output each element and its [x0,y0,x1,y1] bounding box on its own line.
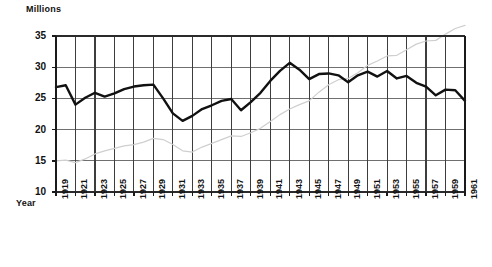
x-tick-label: 1929 [157,179,167,199]
x-tick-label: 1961 [469,179,479,199]
grid-lines [56,36,465,192]
x-tick-label: 1957 [430,179,440,199]
x-tick-label: 1919 [60,179,70,199]
y-tick-label: 25 [24,92,46,103]
x-tick-label: 1945 [313,179,323,199]
x-tick-label: 1923 [99,179,109,199]
x-tick-label: 1947 [333,179,343,199]
y-tick-label: 10 [24,186,46,197]
y-tick-label: 20 [24,124,46,135]
data-series-layer [56,25,465,162]
y-tick-label: 15 [24,155,46,166]
x-tick-label: 1935 [216,179,226,199]
x-tick-label: 1927 [138,179,148,199]
x-tick-label: 1953 [391,179,401,199]
series-line-goods-producing [56,63,465,121]
chart-legend: Goods-Producing Service-Producing [0,238,492,260]
x-tick-label: 1931 [177,179,187,199]
x-tick-label: 1949 [352,179,362,199]
x-tick-label: 1941 [274,179,284,199]
x-tick-label: 1939 [255,179,265,199]
x-tick-label: 1937 [235,179,245,199]
y-tick-label: 35 [24,30,46,41]
x-tick-label: 1925 [118,179,128,199]
line-chart-plot [0,0,492,267]
x-tick-label: 1951 [372,179,382,199]
x-tick-label: 1959 [450,179,460,199]
x-tick-label: 1943 [294,179,304,199]
y-axis-title: Millions [26,4,61,14]
x-axis-title: Year [16,198,36,208]
x-tick-label: 1955 [411,179,421,199]
chart-container: Millions Year 101520253035 1919192119231… [0,0,492,267]
x-tick-label: 1933 [196,179,206,199]
x-tick-label: 1921 [79,179,89,199]
y-tick-label: 30 [24,61,46,72]
